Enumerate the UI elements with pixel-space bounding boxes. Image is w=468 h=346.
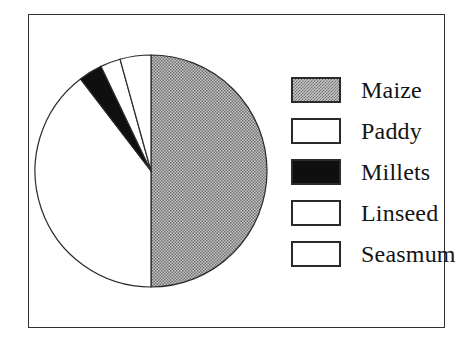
chart-frame: Maize Paddy Millets Linseed Seasmum bbox=[28, 14, 445, 328]
legend-label-linseed: Linseed bbox=[361, 200, 438, 226]
legend: Maize Paddy Millets Linseed Seasmum bbox=[291, 77, 456, 267]
pie-slice-maize bbox=[151, 55, 267, 287]
legend-label-seasmum: Seasmum bbox=[361, 241, 456, 267]
legend-swatch-seasmum bbox=[291, 241, 341, 267]
legend-item-seasmum: Seasmum bbox=[291, 241, 456, 267]
legend-item-millets: Millets bbox=[291, 159, 456, 185]
legend-swatch-maize bbox=[291, 77, 341, 103]
legend-item-linseed: Linseed bbox=[291, 200, 456, 226]
legend-label-paddy: Paddy bbox=[361, 118, 422, 144]
legend-item-maize: Maize bbox=[291, 77, 456, 103]
legend-item-paddy: Paddy bbox=[291, 118, 456, 144]
legend-swatch-millets bbox=[291, 159, 341, 185]
legend-swatch-paddy bbox=[291, 118, 341, 144]
legend-label-millets: Millets bbox=[361, 159, 430, 185]
legend-label-maize: Maize bbox=[361, 77, 422, 103]
legend-swatch-linseed bbox=[291, 200, 341, 226]
